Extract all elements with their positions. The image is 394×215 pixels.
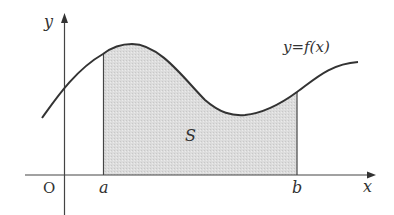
- region-label: S: [185, 126, 196, 145]
- origin-label: O: [43, 179, 55, 197]
- y-axis-label: y: [43, 12, 54, 31]
- lower-bound-label: a: [99, 178, 109, 197]
- curve-label: y=f(x): [282, 38, 330, 56]
- x-axis-label: x: [363, 177, 372, 196]
- integral-area-diagram: y x O a b S y=f(x): [0, 0, 394, 215]
- y-axis-arrow-icon: [61, 13, 68, 23]
- upper-bound-label: b: [292, 178, 302, 197]
